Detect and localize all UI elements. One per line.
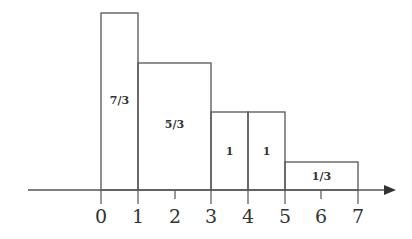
tick-label-3: 3 [205,205,217,227]
bar-label-2: 1 [226,145,234,158]
bar-label-4: 1/3 [312,170,331,183]
bar-label-1: 5/3 [165,118,184,131]
histogram-diagram: 7/3 5/3 1 1 1/3 0 1 2 3 4 5 6 7 [0,0,412,239]
bar-label-0: 7/3 [110,94,129,107]
tick-label-0: 0 [95,205,107,227]
tick-label-2: 2 [169,205,181,227]
tick-label-4: 4 [242,205,254,227]
tick-label-1: 1 [132,205,144,227]
bar-label-3: 1 [263,145,271,158]
arrow-right-icon [384,185,396,195]
tick-label-6: 6 [315,205,327,227]
tick-label-7: 7 [352,205,364,227]
tick-label-5: 5 [279,205,291,227]
